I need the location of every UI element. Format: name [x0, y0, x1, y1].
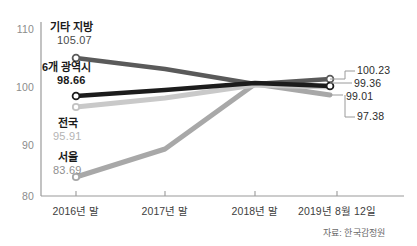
end-value-label-97-38: 97.38: [357, 110, 384, 122]
y-tick-label-80: 80: [8, 190, 34, 202]
end-marker-6-gwangyeoksi: [327, 83, 334, 90]
series-start-value-jeonguk: 95.91: [53, 130, 82, 142]
start-marker-6-gwangyeoksi: [73, 93, 80, 100]
series-label-6-gwangyeoksi: 6개 광역시: [42, 58, 91, 74]
series-label-jeonguk: 전국: [58, 114, 78, 130]
start-marker-jeonguk: [73, 104, 79, 110]
y-tick-label-100: 100: [8, 81, 34, 93]
x-tick-label-2017: 2017년 말: [115, 203, 215, 218]
series-start-value-seoul: 83.69: [53, 164, 82, 176]
end-value-label-100-23: 100.23: [357, 64, 390, 76]
x-tick-label-2019: 2019년 8월 12일: [272, 203, 402, 218]
series-start-value-6-gwangyeoksi: 98.66: [57, 74, 86, 86]
series-start-value-gita-jibang: 105.07: [57, 34, 92, 46]
series-line-gita-jibang: [76, 58, 330, 84]
x-tick-label-2016: 2016년 말: [26, 203, 126, 218]
source-note: 자료: 한국감정원: [323, 226, 385, 239]
series-label-seoul: 서울: [58, 148, 78, 164]
end-value-label-99-01: 99.01: [346, 90, 373, 102]
series-line-seoul: [76, 84, 330, 177]
y-tick-label-90: 90: [8, 139, 34, 151]
series-label-gita-jibang: 기타 지방: [50, 18, 93, 34]
end-value-label-99-36: 99.36: [354, 77, 381, 89]
chart-container: 110 100 90 80 2016년 말 2017년 말 2018년 말 20…: [0, 0, 417, 246]
y-tick-label-110: 110: [8, 23, 34, 35]
